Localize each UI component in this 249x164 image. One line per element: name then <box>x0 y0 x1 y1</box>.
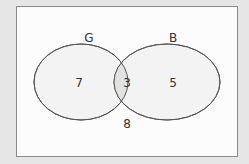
venn-diagram: G B 7 3 5 8 <box>0 0 249 164</box>
set-g-label: G <box>84 31 93 45</box>
outside-value: 8 <box>123 117 131 131</box>
set-b-label: B <box>169 31 177 45</box>
g-only-value: 7 <box>75 76 83 90</box>
intersection-value: 3 <box>123 76 131 90</box>
b-only-value: 5 <box>169 76 177 90</box>
